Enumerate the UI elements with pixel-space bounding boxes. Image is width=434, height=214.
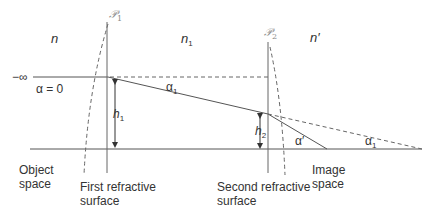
principal-surface2-arc: [270, 47, 285, 175]
alpha1-top-label: α1: [166, 80, 177, 99]
surface2-symbol: 𝒫2: [264, 26, 277, 41]
image-index-label: n′: [310, 30, 320, 45]
alpha1-bottom-label: α1: [365, 134, 376, 153]
principal-surface1-arc: [84, 24, 108, 175]
h2-label: h2: [255, 124, 266, 143]
image-space-label: Imagespace: [312, 163, 345, 191]
alpha-zero-label: α = 0: [36, 82, 63, 96]
ray-between-surfaces: [108, 77, 268, 114]
infinity-label: −∞: [12, 70, 28, 84]
alpha-prime-label: α′: [295, 134, 304, 148]
object-space-label: Objectspace: [19, 163, 54, 191]
second-surface-label: Second refractivesurface: [217, 180, 310, 208]
object-index-label: n: [51, 31, 58, 46]
dashed-ray-extension: [268, 114, 422, 149]
h1-label: h1: [113, 107, 124, 126]
middle-index-label: n1: [181, 31, 193, 48]
optics-diagram: n n1 n′ 𝒫1 𝒫2 −∞ α = 0 α1 α′ α1 h1 h2 Ob…: [0, 0, 434, 214]
first-surface-label: First refractivesurface: [80, 180, 156, 208]
surface1-symbol: 𝒫1: [109, 8, 122, 23]
